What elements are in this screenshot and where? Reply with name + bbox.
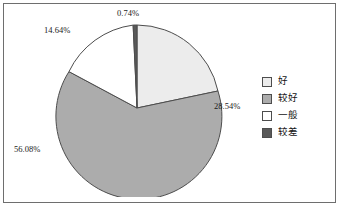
pie-chart-svg xyxy=(48,19,226,197)
legend-swatch-good xyxy=(262,77,272,87)
pie-value-label-good: 28.54% xyxy=(214,101,240,111)
pie-value-label-fair: 56.08% xyxy=(14,144,40,154)
legend-label-normal: 一般 xyxy=(278,111,298,121)
legend-swatch-normal xyxy=(262,111,272,121)
pie-value-label-poor: 0.74% xyxy=(117,8,139,18)
legend-label-poor: 较差 xyxy=(278,128,298,138)
legend-item-fair[interactable]: 较好 xyxy=(262,91,318,107)
legend-item-good[interactable]: 好 xyxy=(262,74,318,90)
legend-swatch-poor xyxy=(262,128,272,138)
legend-label-fair: 较好 xyxy=(278,94,298,104)
legend-item-poor[interactable]: 较差 xyxy=(262,125,318,141)
legend-swatch-fair xyxy=(262,94,272,104)
chart-legend: 好 较好 一般 较差 xyxy=(262,74,318,142)
chart-page: 28.54% 56.08% 14.64% 0.74% 好 较好 一般 较差 xyxy=(0,0,341,208)
legend-label-good: 好 xyxy=(278,77,288,87)
pie-chart-plot-area: 28.54% 56.08% 14.64% 0.74% 好 较好 一般 较差 xyxy=(0,0,341,208)
pie-value-label-normal: 14.64% xyxy=(44,25,70,35)
legend-item-normal[interactable]: 一般 xyxy=(262,108,318,124)
